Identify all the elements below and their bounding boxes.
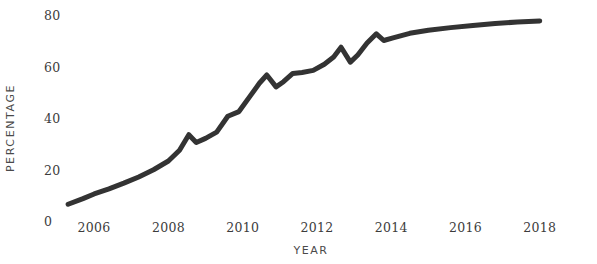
x-tick-label: 2006 (78, 220, 111, 235)
y-tick-label: 60 (44, 60, 61, 75)
chart-canvas: 020406080 2006200820102012201420162018 P… (0, 0, 597, 264)
line-chart-figure: 020406080 2006200820102012201420162018 P… (0, 0, 597, 264)
x-axis-tick-labels: 2006200820102012201420162018 (78, 220, 557, 235)
x-tick-label: 2008 (152, 220, 185, 235)
y-tick-label: 20 (44, 163, 61, 178)
x-tick-label: 2016 (449, 220, 482, 235)
y-tick-label: 80 (44, 8, 61, 23)
x-tick-label: 2010 (226, 220, 259, 235)
x-axis-title: YEAR (292, 244, 328, 257)
x-tick-label: 2012 (300, 220, 333, 235)
y-tick-label: 0 (44, 214, 52, 229)
data-series-line (68, 21, 540, 204)
x-tick-label: 2018 (523, 220, 556, 235)
y-axis-tick-labels: 020406080 (44, 8, 61, 229)
y-axis-title: PERCENTAGE (4, 84, 17, 172)
x-tick-label: 2014 (375, 220, 408, 235)
y-tick-label: 40 (44, 111, 61, 126)
